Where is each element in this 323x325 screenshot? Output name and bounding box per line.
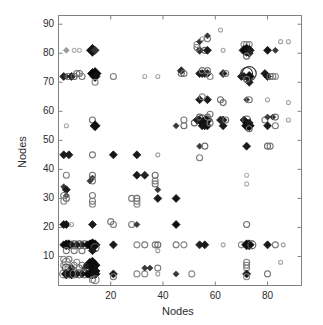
y-tick-label: 40 bbox=[30, 164, 54, 174]
y-tick-label: 20 bbox=[30, 222, 54, 232]
x-tick-label: 80 bbox=[253, 291, 283, 301]
y-tick-label: 90 bbox=[30, 19, 54, 29]
y-tick-label: 60 bbox=[30, 106, 54, 116]
y-tick-label: 70 bbox=[30, 77, 54, 87]
y-tick-label: 50 bbox=[30, 135, 54, 145]
y-tick-label: 10 bbox=[30, 251, 54, 261]
scatter-plot-figure: 102030405060708090 20406080 Nodes Nodes bbox=[0, 0, 323, 325]
x-tick-label: 60 bbox=[200, 291, 230, 301]
x-tick-label: 20 bbox=[96, 291, 126, 301]
data-markers bbox=[60, 28, 291, 284]
y-axis-title: Nodes bbox=[16, 136, 28, 168]
x-axis-title: Nodes bbox=[162, 305, 194, 317]
x-tick-label: 40 bbox=[148, 291, 178, 301]
y-tick-label: 80 bbox=[30, 48, 54, 58]
y-tick-label: 30 bbox=[30, 193, 54, 203]
